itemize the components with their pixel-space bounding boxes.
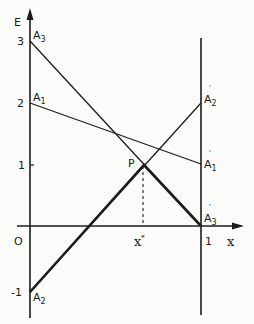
label-P: P [128,157,135,170]
x-tick-xstar: x* [134,234,145,249]
label-A2: A2 [33,291,46,306]
line-A1-A1prime [30,103,201,164]
y-axis-label: E [14,16,21,29]
prime-A2: ' [209,84,211,92]
game-theory-diagram: E O x 3 2 1 -1 1 x* A3 A1 A2 A2 ' A1 ' A… [0,0,254,324]
label-A3: A3 [33,29,46,44]
x-tick-1: 1 [205,235,212,248]
prime-A3: ' [209,203,211,211]
x-axis-arrow-icon [232,223,244,230]
x-axis-label: x [227,234,235,249]
label-A1prime: A1 [204,158,217,173]
prime-A1: ' [209,149,211,157]
thick-envelope-path [30,165,201,292]
origin-label: O [14,235,23,248]
y-tick-neg1: -1 [11,286,22,299]
y-tick-2: 2 [17,97,24,110]
label-A1: A1 [33,91,46,106]
y-tick-3: 3 [17,35,24,48]
label-A3prime: A3 [204,212,217,227]
y-axis-arrow-icon [27,8,34,20]
y-tick-1: 1 [18,159,25,172]
label-A2prime: A2 [204,93,217,108]
